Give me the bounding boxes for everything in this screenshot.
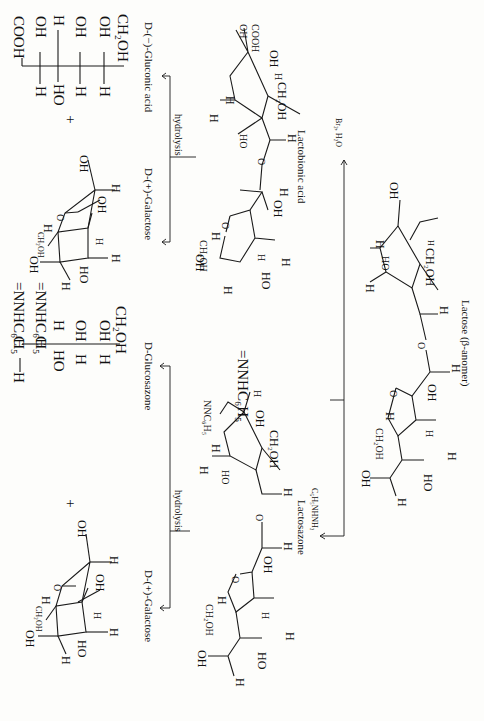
- cooh-label: COOH: [11, 16, 27, 59]
- h-label: H: [223, 96, 237, 105]
- galactose-bottom-ring: OH H OH O H CH₂OH H OH H HO H: [23, 520, 121, 665]
- h-label: H: [107, 628, 121, 637]
- h-label: H: [73, 86, 89, 97]
- ho-label: HO: [259, 272, 273, 290]
- oh-label: OH: [95, 196, 109, 214]
- h-label: H: [273, 73, 284, 80]
- oh-label: OH: [75, 520, 89, 538]
- ho-label: HO: [77, 266, 91, 284]
- oh-label: OH: [193, 254, 207, 272]
- ho-label: HO: [255, 652, 269, 670]
- h-label: H: [92, 612, 103, 619]
- h-label: H: [73, 354, 89, 365]
- oh-label: OH: [195, 650, 209, 668]
- hydrolysis-label: hydrolysis: [173, 490, 184, 532]
- oh-label: OH: [97, 320, 113, 342]
- oh-label: OH: [23, 630, 37, 648]
- oh-label: OH: [27, 256, 41, 274]
- h-label: H: [252, 390, 263, 397]
- nnc6h5-label: NNC₆H₅: [202, 400, 213, 435]
- ch2oh-label: CH₂OH: [423, 248, 437, 287]
- glycosidic-oxygen-label: O: [256, 158, 267, 165]
- lactosazone-structure: NNC₆H₅ =NNHC₆H₅ H OH CH₂OH H H HO H O H …: [195, 350, 297, 687]
- oh-label: OH: [253, 410, 267, 428]
- h-label: H: [363, 284, 377, 293]
- galactose-top-label: D-(+)-Galactose: [142, 168, 155, 240]
- h-label: H: [94, 238, 105, 245]
- h-label: H: [97, 86, 113, 97]
- nnhc6h5-label: =NNHC₆H₅: [235, 350, 251, 422]
- h-label: H: [33, 86, 49, 97]
- h-label: H: [59, 282, 73, 291]
- osazone-arrow: C₆H₅NHNH₂: [310, 400, 344, 539]
- ho-label: HO: [51, 84, 67, 106]
- oh-label: OH: [271, 200, 285, 218]
- ho-label: HO: [51, 350, 67, 372]
- oh-label: OH: [359, 470, 373, 488]
- phenylhydrazine-label: C₆H₅NHNH₂: [310, 488, 319, 531]
- glucosazone-fischer: H C =NNHC₆H₅ C =NNHC₆H₅ H HO OH H OH H C…: [11, 282, 129, 383]
- h-label: H: [207, 114, 221, 123]
- oh-label: OH: [387, 182, 401, 200]
- h-label: H: [233, 678, 247, 687]
- oh-label: OH: [77, 155, 91, 173]
- lactose-structure: OH H HO H CH₂OH H H O H OH O H CH₂OH H H…: [359, 182, 463, 507]
- hydrolysis-arrow-bottom: hydrolysis: [160, 363, 190, 611]
- h-label: H: [109, 254, 123, 263]
- h-label: H: [51, 320, 67, 331]
- ch2oh-label: CH₂OH: [36, 232, 45, 258]
- h-label: H: [107, 556, 121, 565]
- oh-label: OH: [261, 556, 275, 574]
- oh-label: OH: [238, 24, 249, 38]
- plus-sign: +: [66, 111, 74, 127]
- h-label: H: [109, 184, 123, 193]
- ring-oxygen-label: O: [388, 390, 399, 397]
- h-label: H: [197, 466, 211, 475]
- ring-oxygen-label: O: [220, 222, 231, 229]
- h-label: H: [277, 188, 291, 197]
- h-label: H: [209, 232, 223, 241]
- lactobionic-acid-label: Lactobionic acid: [296, 130, 308, 204]
- reaction-diagram: COOH OH H H HO OH H OH H CH₂OH D-(−)-Glu…: [0, 0, 484, 721]
- gluconic-acid-fischer: COOH OH H H HO OH H OH H CH₂OH: [11, 14, 131, 106]
- ch2oh-label: CH₂OH: [115, 14, 131, 62]
- glycosidic-oxygen-label: O: [254, 514, 265, 521]
- oh-label: OH: [93, 574, 107, 592]
- h-label: H: [209, 444, 223, 453]
- h-label: H: [97, 354, 113, 365]
- h-label: H: [283, 632, 297, 641]
- cooh-label: COOH: [250, 24, 261, 52]
- hydrolysis-label: hydrolysis: [173, 114, 184, 156]
- lactobionic-acid-structure: OH COOH OH H CH₂OH H H HO H O H OH O H C…: [193, 24, 300, 295]
- ch2oh-label: CH₂OH: [113, 306, 129, 354]
- h-label: H: [281, 488, 295, 497]
- h-label: H: [373, 240, 387, 249]
- ho-label: HO: [220, 470, 231, 484]
- h-label: H: [279, 258, 293, 267]
- h-label: H: [395, 498, 409, 507]
- h-label: H: [215, 596, 229, 605]
- lactosazone-label: Lactosazone: [296, 500, 308, 555]
- ch2oh-label: CH₂OH: [34, 606, 43, 632]
- ring-oxygen-label: O: [55, 214, 66, 221]
- glucosazone-label: D-Glucosazone: [143, 342, 155, 411]
- lactose-label: Lactose (β-anomer): [459, 300, 472, 387]
- oh-label: OH: [425, 384, 439, 402]
- plus-sign: +: [66, 495, 74, 511]
- h-label: H: [256, 254, 267, 261]
- hydrolysis-arrow-top: hydrolysis: [162, 73, 196, 245]
- oh-label: OH: [267, 50, 281, 68]
- gluconic-acid-label: D-(−)-Gluconic acid: [142, 22, 155, 113]
- h-label: H: [260, 612, 271, 619]
- h-label: H: [39, 596, 53, 605]
- ring-oxygen-label: O: [52, 584, 63, 591]
- h-label: H: [445, 452, 459, 461]
- ch2oh-label: CH₂OH: [204, 604, 215, 636]
- h-label: H: [11, 372, 27, 383]
- ch2oh-label: CH₂OH: [275, 82, 289, 121]
- h-label: H: [426, 240, 435, 246]
- galactose-bottom-label: D-(+)-Galactose: [142, 570, 155, 642]
- ring-oxygen-label: O: [230, 576, 241, 583]
- oh-label: OH: [97, 16, 113, 38]
- galactose-top-ring: OH H OH O H CH₂OH H OH H HO H: [27, 155, 123, 291]
